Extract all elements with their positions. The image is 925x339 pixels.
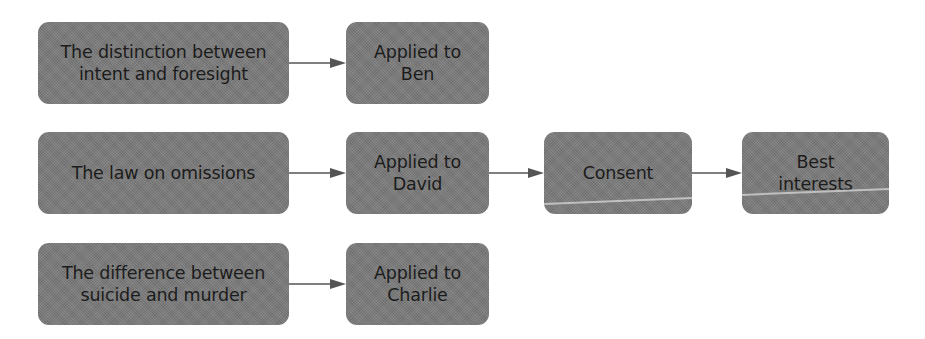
node-label: Consent <box>583 162 653 184</box>
node-suicide-murder: The difference between suicide and murde… <box>38 243 289 325</box>
node-applied-charlie: Applied to Charlie <box>346 243 489 325</box>
arrow-david-to-consent <box>489 168 544 178</box>
node-intent-foresight: The distinction between intent and fores… <box>38 22 289 104</box>
arrow-omissions-to-david <box>289 168 346 178</box>
scan-artifact-line <box>544 197 692 205</box>
node-label: Best interests <box>778 151 852 195</box>
node-label: Applied to Charlie <box>374 262 461 306</box>
node-label: The law on omissions <box>72 162 256 184</box>
node-label: Applied to David <box>374 151 461 195</box>
node-label: The difference between suicide and murde… <box>62 262 265 306</box>
node-label: Applied to Ben <box>374 41 461 85</box>
node-best-interests: Best interests <box>742 132 889 214</box>
arrow-consent-to-best-interests <box>692 168 742 178</box>
node-applied-ben: Applied to Ben <box>346 22 489 104</box>
node-law-omissions: The law on omissions <box>38 132 289 214</box>
arrow-suicide-to-charlie <box>289 279 346 289</box>
node-label: The distinction between intent and fores… <box>61 41 267 85</box>
arrow-intent-to-ben <box>289 58 346 68</box>
node-consent: Consent <box>544 132 692 214</box>
node-applied-david: Applied to David <box>346 132 489 214</box>
